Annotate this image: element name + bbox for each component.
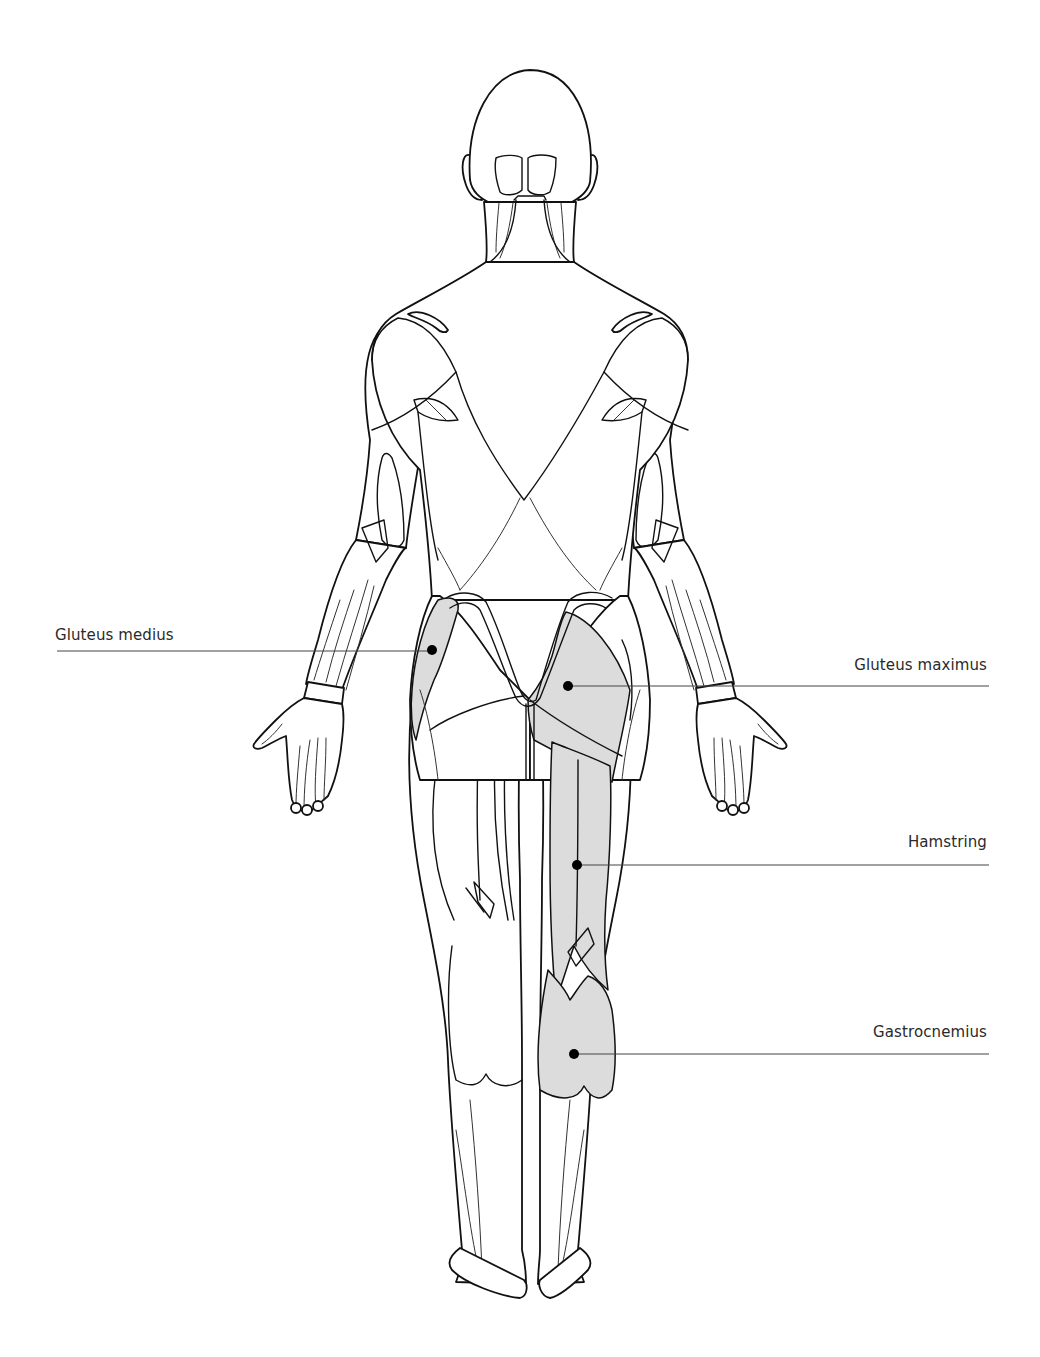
- anatomy-figure-posterior: [0, 0, 1040, 1357]
- neck: [484, 196, 576, 262]
- leader-gastrocnemius: [569, 1049, 989, 1059]
- head: [463, 70, 598, 203]
- label-gluteus-maximus: Gluteus maximus: [854, 656, 987, 674]
- label-gastrocnemius: Gastrocnemius: [873, 1023, 987, 1041]
- label-gluteus-medius: Gluteus medius: [55, 626, 174, 644]
- left-leg: [409, 700, 526, 1298]
- label-hamstring: Hamstring: [908, 833, 987, 851]
- leader-hamstring: [572, 860, 989, 870]
- leader-gluteus-medius: [57, 645, 437, 655]
- hips: [410, 592, 650, 782]
